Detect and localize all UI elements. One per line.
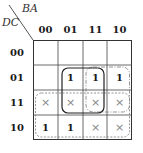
grouping-loops bbox=[0, 0, 143, 153]
group-cols-01-11-rows-01-11 bbox=[62, 68, 104, 113]
group-rows-11-10 bbox=[36, 93, 130, 137]
karnaugh-map: BA DC 00 01 11 10 00 01 11 10 1 1 1 × × … bbox=[0, 0, 143, 153]
group-cols-11-10-rows-01-11 bbox=[86, 67, 130, 112]
